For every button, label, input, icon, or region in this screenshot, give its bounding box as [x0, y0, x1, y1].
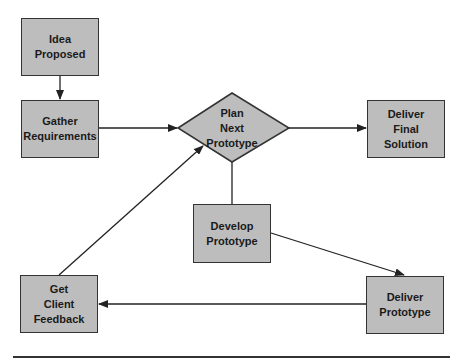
node-deliver-prototype: Deliver Prototype: [366, 276, 444, 334]
node-plan-next-prototype: Plan Next Prototype: [190, 106, 274, 151]
node-develop-prototype: Develop Prototype: [193, 204, 271, 263]
bottom-divider: [13, 356, 450, 358]
node-get-client-feedback: Get Client Feedback: [20, 275, 98, 333]
edge-develop-to-deliver: [271, 233, 404, 275]
node-deliver-final-solution: Deliver Final Solution: [367, 100, 445, 158]
node-idea-proposed: Idea Proposed: [21, 18, 99, 76]
node-gather-requirements: Gather Requirements: [21, 100, 99, 158]
edge-feedback-to-plan: [59, 146, 203, 275]
